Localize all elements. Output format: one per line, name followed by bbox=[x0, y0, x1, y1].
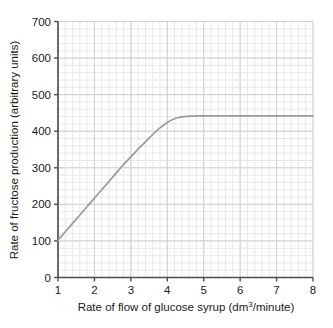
chart-svg: 0100200300400500600700 12345678 Rate of … bbox=[0, 0, 333, 328]
x-tick-label: 3 bbox=[128, 284, 134, 296]
y-axis-title: Rate of fructose production (arbitrary u… bbox=[8, 41, 20, 260]
x-tick-label: 4 bbox=[164, 284, 171, 296]
y-tick-label: 400 bbox=[32, 125, 51, 137]
y-tick-label: 100 bbox=[32, 235, 51, 247]
y-tick-label: 200 bbox=[32, 198, 51, 210]
y-tick-label: 600 bbox=[32, 52, 51, 64]
y-tick-label: 500 bbox=[32, 89, 51, 101]
chart-figure: 0100200300400500600700 12345678 Rate of … bbox=[0, 0, 333, 328]
x-tick-label: 6 bbox=[237, 284, 243, 296]
y-tick-label: 300 bbox=[32, 162, 51, 174]
y-tick-label: 700 bbox=[32, 16, 51, 28]
y-tick-label: 0 bbox=[45, 272, 51, 284]
x-tick-label: 8 bbox=[310, 284, 316, 296]
x-tick-label: 5 bbox=[201, 284, 207, 296]
x-tick-label: 2 bbox=[91, 284, 97, 296]
x-tick-label: 1 bbox=[55, 284, 61, 296]
x-axis-title: Rate of flow of glucose syrup (dm3/minut… bbox=[78, 300, 295, 314]
x-tick-label: 7 bbox=[273, 284, 279, 296]
